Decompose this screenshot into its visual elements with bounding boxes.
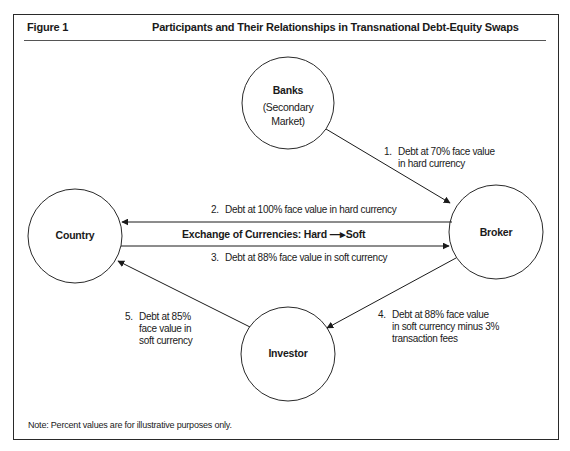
exchange-label: Exchange of Currencies: Hard —▸Soft [182, 228, 365, 240]
arrow-right-icon: —▸ [330, 228, 346, 240]
broker-label: Broker [456, 226, 536, 238]
flow-3-label: 3.Debt at 88% face value in soft currenc… [211, 252, 387, 264]
flow-1-label: 1.Debt at 70% face value in hard currenc… [384, 146, 495, 170]
banks-label: Banks [248, 84, 328, 96]
banks-sublabel-2: Market) [243, 114, 333, 128]
flow-4-label: 4.Debt at 88% face value in soft currenc… [378, 309, 499, 345]
country-label: Country [35, 229, 115, 241]
flow-2-label: 2.Debt at 100% face value in hard curren… [211, 204, 396, 216]
flow-5-label: 5.Debt at 85% face value in soft currenc… [125, 311, 192, 347]
figure-note: Note: Percent values are for illustrativ… [28, 420, 232, 430]
banks-sublabel-1: (Secondary [243, 100, 333, 114]
investor-label: Investor [248, 347, 328, 359]
